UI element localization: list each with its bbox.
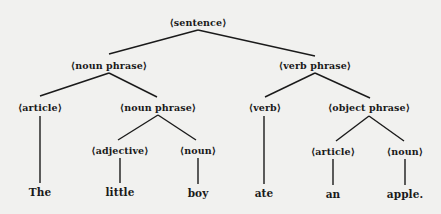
edge-verb-phrase-object-phrase bbox=[315, 73, 370, 98]
edge-object-phrase-noun bbox=[369, 116, 404, 141]
word-little: little bbox=[106, 186, 135, 198]
edge-object-phrase-article bbox=[336, 116, 369, 141]
node-noun-phrase-inner: ⟨noun phrase⟩ bbox=[120, 102, 196, 113]
node-adjective: ⟨adjective⟩ bbox=[91, 145, 148, 156]
edge-noun-phrase2-adjective bbox=[118, 115, 158, 140]
word-boy: boy bbox=[188, 187, 209, 199]
node-article-object: ⟨article⟩ bbox=[311, 146, 355, 157]
word-apple: apple. bbox=[387, 188, 423, 200]
edge-noun-phrase2-noun bbox=[158, 115, 196, 140]
edge-noun-phrase-noun-phrase bbox=[109, 73, 157, 97]
node-noun: ⟨noun⟩ bbox=[180, 145, 216, 156]
edge-verb-phrase-verb bbox=[265, 73, 315, 97]
node-noun-object: ⟨noun⟩ bbox=[387, 146, 423, 157]
edge-sentence-verb-phrase bbox=[198, 30, 315, 56]
edge-sentence-noun-phrase bbox=[109, 30, 198, 54]
node-verb-phrase: ⟨verb phrase⟩ bbox=[279, 60, 352, 71]
edge-noun-phrase-article bbox=[40, 73, 109, 96]
word-the: The bbox=[29, 186, 51, 198]
word-ate: ate bbox=[255, 187, 274, 199]
node-noun-phrase: ⟨noun phrase⟩ bbox=[71, 60, 147, 71]
parse-tree-diagram: ⟨sentence⟩ ⟨noun phrase⟩ ⟨verb phrase⟩ ⟨… bbox=[0, 0, 441, 214]
node-sentence: ⟨sentence⟩ bbox=[169, 17, 226, 28]
word-an: an bbox=[326, 188, 341, 200]
node-object-phrase: ⟨object phrase⟩ bbox=[328, 102, 410, 113]
node-verb: ⟨verb⟩ bbox=[249, 102, 282, 113]
node-article: ⟨article⟩ bbox=[18, 102, 62, 113]
